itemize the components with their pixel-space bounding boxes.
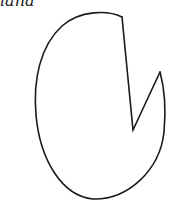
figure-canvas: iana [0, 0, 169, 201]
pie-ellipse-figure [0, 0, 169, 201]
ellipse-outline [35, 13, 165, 199]
wedge-lines [122, 17, 160, 130]
